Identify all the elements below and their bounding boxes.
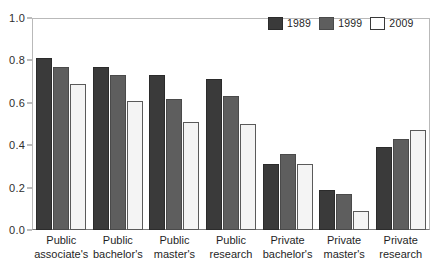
x-category-line-1: Private (384, 234, 418, 246)
y-tick-label: 0.6 (9, 97, 25, 109)
bar (263, 164, 279, 230)
x-category-line-2: associate's (33, 247, 90, 261)
x-category-line-1: Private (270, 234, 304, 246)
y-tick-label: 0.2 (9, 182, 25, 194)
bar (110, 75, 126, 230)
bar (127, 101, 143, 230)
bar (376, 147, 392, 230)
bar (353, 211, 369, 230)
x-category-line-2: bachelor's (259, 247, 316, 261)
y-tick-mark (27, 18, 32, 19)
bar (297, 164, 313, 230)
legend-swatch-icon (268, 17, 283, 30)
x-category-line-2: master's (146, 247, 203, 261)
x-category-label: Publicmaster's (146, 233, 203, 261)
bar-group (372, 18, 429, 230)
y-tick-mark (27, 145, 32, 146)
x-category-line-2: research (203, 247, 260, 261)
bar (70, 84, 86, 230)
y-tick-mark (27, 60, 32, 61)
bar (223, 96, 239, 230)
x-category-label: Privatemaster's (316, 233, 373, 261)
y-tick-mark (27, 187, 32, 188)
x-category-line-2: master's (316, 247, 373, 261)
x-category-line-1: Public (216, 234, 246, 246)
legend-label: 1999 (338, 17, 362, 29)
x-category-line-2: research (372, 247, 429, 261)
y-tick-label: 0.0 (9, 224, 25, 236)
y-tick-mark (27, 102, 32, 103)
x-category-label: Publicresearch (203, 233, 260, 261)
legend-swatch-icon (319, 17, 334, 30)
x-category-label: Publicbachelor's (90, 233, 147, 261)
bar (166, 99, 182, 230)
y-axis: 1.00.80.60.40.20.0 (0, 0, 32, 267)
x-category-line-2: bachelor's (90, 247, 147, 261)
legend-item[interactable]: 2009 (370, 17, 413, 30)
y-tick-label: 1.0 (9, 12, 25, 24)
y-tick-mark (27, 230, 32, 231)
bar-group (90, 18, 147, 230)
bar (149, 75, 165, 230)
bar (93, 67, 109, 230)
bar (336, 194, 352, 230)
legend-label: 2009 (389, 17, 413, 29)
x-category-label: Privateresearch (372, 233, 429, 261)
legend-item[interactable]: 1999 (319, 17, 362, 30)
bar (410, 130, 426, 230)
y-tick-label: 0.8 (9, 54, 25, 66)
bar (280, 154, 296, 230)
legend: 198919992009 (268, 14, 414, 32)
x-category-line-1: Public (159, 234, 189, 246)
bar-group (203, 18, 260, 230)
x-axis: Publicassociate'sPublicbachelor'sPublicm… (33, 233, 429, 267)
bar (319, 190, 335, 230)
bar-group (146, 18, 203, 230)
bar-group (259, 18, 316, 230)
chart-container: 1.00.80.60.40.20.0 Publicassociate'sPubl… (0, 0, 438, 267)
x-category-line-1: Private (327, 234, 361, 246)
bars-layer (33, 18, 429, 230)
bar (36, 58, 52, 230)
bar (53, 67, 69, 230)
bar (240, 124, 256, 230)
x-category-line-1: Public (103, 234, 133, 246)
x-category-line-1: Public (46, 234, 76, 246)
bar (206, 79, 222, 230)
legend-swatch-icon (370, 17, 385, 30)
x-category-label: Privatebachelor's (259, 233, 316, 261)
bar-group (33, 18, 90, 230)
bar-group (316, 18, 373, 230)
bar (393, 139, 409, 230)
legend-label: 1989 (287, 17, 311, 29)
y-tick-label: 0.4 (9, 139, 25, 151)
bar (183, 122, 199, 230)
x-category-label: Publicassociate's (33, 233, 90, 261)
legend-item[interactable]: 1989 (268, 17, 311, 30)
